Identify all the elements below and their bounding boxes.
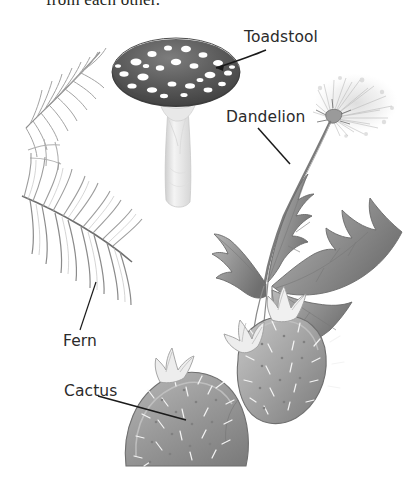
leader-lines	[80, 50, 290, 420]
cactus-illustration	[125, 286, 344, 466]
illustration-page: from each other.	[0, 0, 411, 494]
dandelion-leader-line	[258, 128, 290, 164]
cactus-flower-left	[155, 348, 194, 383]
label-cactus: Cactus	[64, 382, 117, 400]
cut-off-body-text: from each other.	[46, 0, 160, 10]
label-dandelion: Dandelion	[226, 108, 305, 126]
fern-leader-line	[80, 282, 96, 330]
label-toadstool: Toadstool	[244, 28, 318, 46]
plant-illustrations-artwork	[0, 0, 411, 494]
cactus-flower-right-b	[267, 286, 306, 322]
label-fern: Fern	[63, 332, 97, 350]
toadstool-leader-arrow	[216, 65, 224, 71]
cactus-flower-right-a	[224, 320, 264, 353]
toadstool-illustration	[112, 38, 240, 207]
toadstool-leader-line	[216, 50, 266, 68]
fern-illustration	[22, 48, 142, 305]
